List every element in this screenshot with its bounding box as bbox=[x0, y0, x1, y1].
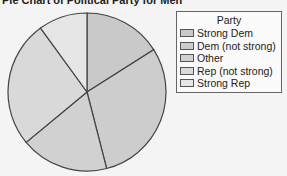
legend-label: Dem (not strong) bbox=[197, 40, 276, 52]
legend-item-rep-not-strong: Rep (not strong) bbox=[180, 65, 281, 78]
legend-swatch bbox=[180, 29, 194, 37]
legend-swatch bbox=[180, 54, 194, 62]
legend-label: Rep (not strong) bbox=[197, 65, 273, 77]
legend-title: Party bbox=[177, 14, 281, 27]
legend-item-dem-not-strong: Dem (not strong) bbox=[180, 40, 281, 53]
legend-swatch bbox=[180, 42, 194, 50]
legend-item-other: Other bbox=[180, 52, 281, 65]
legend-label: Strong Rep bbox=[197, 77, 250, 89]
legend: Party Strong Dem Dem (not strong) Other … bbox=[176, 11, 282, 93]
legend-item-strong-dem: Strong Dem bbox=[180, 27, 281, 40]
legend-label: Strong Dem bbox=[197, 27, 253, 39]
legend-item-strong-rep: Strong Rep bbox=[180, 77, 281, 90]
pie-chart bbox=[0, 0, 175, 176]
legend-swatch bbox=[180, 79, 194, 87]
legend-label: Other bbox=[197, 52, 223, 64]
legend-swatch bbox=[180, 67, 194, 75]
